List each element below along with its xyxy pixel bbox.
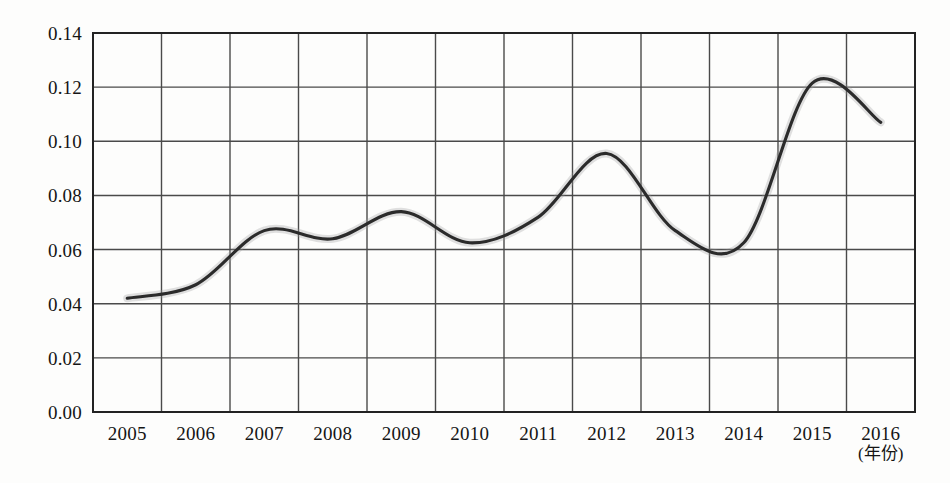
y-axis-tick-label: 0.14	[8, 24, 82, 43]
x-axis-tick-label-text: 2016	[861, 423, 900, 444]
x-axis-tick-label-text: 2012	[587, 423, 626, 444]
line-chart-canvas	[0, 0, 950, 483]
y-axis-tick-label: 0.06	[8, 241, 82, 260]
vertical-gridlines	[93, 33, 915, 412]
y-axis-tick-label: 0.00	[8, 403, 82, 422]
x-axis-tick-label-text: 2008	[313, 423, 352, 444]
y-axis-tick-label: 0.10	[8, 132, 82, 151]
y-axis-tick-label: 0.02	[8, 349, 82, 368]
chart-figure: 0.000.020.040.060.080.100.120.14 2005200…	[0, 0, 950, 483]
x-axis-tick-label-text: 2011	[519, 423, 557, 444]
x-axis-tick-label-text: 2010	[450, 423, 489, 444]
x-axis-tick-label-text: 2009	[382, 423, 421, 444]
y-axis-tick-label: 0.08	[8, 186, 82, 205]
x-axis-tick-label-text: 2015	[793, 423, 832, 444]
x-axis-tick-label-text: 2007	[245, 423, 284, 444]
x-axis-tick-label-text: 2005	[108, 423, 147, 444]
x-axis-tick-label-text: 2006	[176, 423, 215, 444]
x-axis-tick-label-text: 2014	[724, 423, 763, 444]
y-axis-tick-label: 0.04	[8, 295, 82, 314]
x-axis-tick-label: 2016(年份)	[836, 423, 926, 463]
y-axis-tick-label: 0.12	[8, 78, 82, 97]
grid-lines	[93, 33, 915, 412]
x-axis-unit-label: (年份)	[836, 444, 926, 463]
x-axis-tick-label-text: 2013	[656, 423, 695, 444]
